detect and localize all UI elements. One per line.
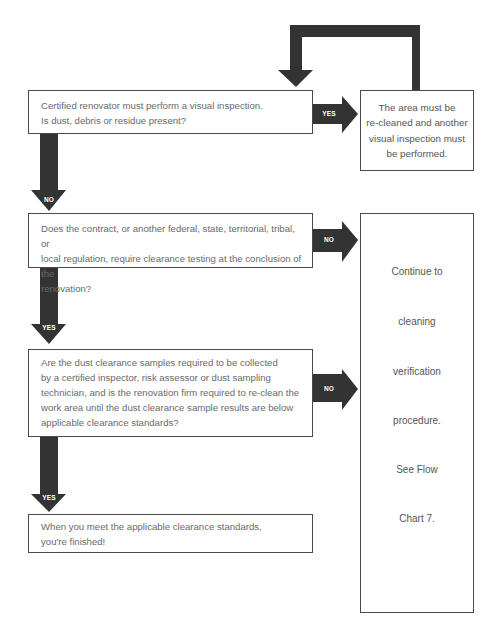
step2-text: Does the contract, or another federal, s… <box>41 221 304 296</box>
recleaning-result-text: The area must be re-cleaned and another … <box>366 100 467 162</box>
step3-no-label: NO <box>318 385 340 392</box>
step2-yes-label: YES <box>36 324 62 331</box>
step2-no-label: NO <box>318 236 340 243</box>
final-box: When you meet the applicable clearance s… <box>28 514 313 553</box>
side-line-2: cleaning <box>361 314 473 329</box>
side-line-1: Continue to <box>361 264 473 279</box>
recleaning-result-box: The area must be re-cleaned and another … <box>360 90 474 171</box>
step3-box: Are the dust clearance samples required … <box>28 349 313 437</box>
side-line-6: Chart 7. <box>361 511 473 526</box>
side-line-5: See Flow <box>361 462 473 477</box>
side-line-3: verification <box>361 364 473 379</box>
step1-text: Certified renovator must perform a visua… <box>41 98 304 128</box>
cleaning-verification-box: Continue to cleaning verification proced… <box>360 213 474 613</box>
step1-no-label: NO <box>36 196 62 203</box>
final-text: When you meet the applicable clearance s… <box>41 519 304 549</box>
side-line-4: procedure. <box>361 413 473 428</box>
step2-box: Does the contract, or another federal, s… <box>28 213 313 268</box>
loop-back-arrow <box>278 25 420 90</box>
step3-yes-label: YES <box>36 494 62 501</box>
step3-text: Are the dust clearance samples required … <box>41 355 304 430</box>
step1-yes-label: YES <box>318 110 340 117</box>
step1-box: Certified renovator must perform a visua… <box>28 90 313 134</box>
